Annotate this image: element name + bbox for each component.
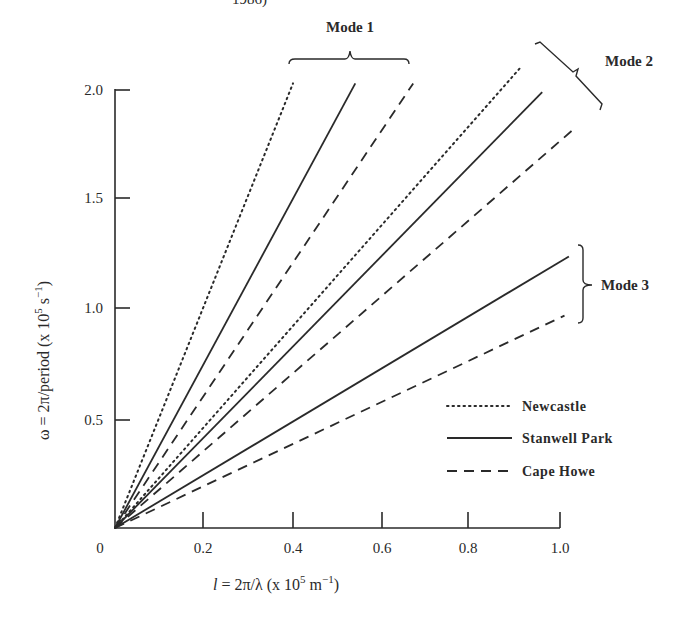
mode-2-brace xyxy=(535,42,602,110)
y-axis-title-text: ω = 2π/period (x 10 xyxy=(35,314,53,440)
series-line-mode-1-stanwell-park xyxy=(115,83,355,528)
x-tick-label: 0.2 xyxy=(194,540,213,556)
axes xyxy=(115,89,560,528)
x-tick-label: 0.8 xyxy=(459,540,478,556)
series-line-mode-1-newcastle xyxy=(115,83,293,528)
dispersion-chart: 1986) 2.0 1.5 1.0 0.5 0 0.2 0.4 0.6 0.8 … xyxy=(0,0,690,619)
mode-1-brace xyxy=(289,51,409,64)
mode-1-label: Mode 1 xyxy=(326,19,374,35)
x-axis-title: l = 2π/λ (x 105 m−1) xyxy=(213,573,339,594)
y-axis-title-unit-exp: −1 xyxy=(32,286,44,298)
y-tick-label: 1.5 xyxy=(84,190,103,206)
y-tick-label: 0.5 xyxy=(84,412,103,428)
x-tick-label: 0 xyxy=(96,540,104,556)
x-tick-label: 0.6 xyxy=(373,540,392,556)
series-line-mode-2-cape-howe xyxy=(115,129,573,528)
x-axis-title-text: = 2π/λ (x 10 xyxy=(217,576,300,594)
y-axis-title-close: ) xyxy=(35,281,53,286)
x-axis-title-unit: m xyxy=(306,576,323,593)
series-line-mode-2-newcastle xyxy=(115,68,520,528)
x-tick-label: 0.4 xyxy=(284,540,303,556)
mode-3-brace xyxy=(578,245,592,323)
series-line-mode-1-cape-howe xyxy=(115,83,413,528)
x-tick-label: 1.0 xyxy=(551,540,570,556)
clipped-caption: 1986) xyxy=(232,0,267,8)
legend-label-stanwell-park: Stanwell Park xyxy=(522,431,613,446)
legend: Newcastle Stanwell Park Cape Howe xyxy=(447,399,613,479)
series-line-mode-3-cape-howe xyxy=(115,316,565,528)
y-axis-title: ω = 2π/period (x 105 s−1) xyxy=(32,281,53,440)
y-tick-label: 2.0 xyxy=(84,82,103,98)
x-axis-title-unit-exp: −1 xyxy=(322,573,334,585)
x-axis-title-close: ) xyxy=(334,576,339,594)
legend-label-cape-howe: Cape Howe xyxy=(522,464,595,479)
y-axis-title-unit: s xyxy=(35,298,52,308)
mode-2-label: Mode 2 xyxy=(605,53,653,69)
legend-label-newcastle: Newcastle xyxy=(522,399,586,414)
mode-3-label: Mode 3 xyxy=(601,277,649,293)
y-tick-labels: 2.0 1.5 1.0 0.5 xyxy=(84,82,103,428)
y-tick-label: 1.0 xyxy=(84,300,103,316)
series-lines xyxy=(115,68,573,528)
x-tick-labels: 0 0.2 0.4 0.6 0.8 1.0 xyxy=(96,540,569,556)
